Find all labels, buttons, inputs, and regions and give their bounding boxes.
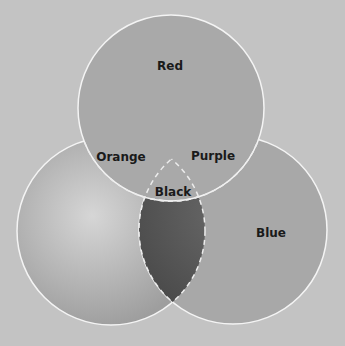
label-blue: Blue: [256, 226, 286, 240]
label-orange: Orange: [96, 150, 146, 164]
label-black: Black: [155, 185, 191, 199]
venn-diagram: Red Orange Purple Black Blue: [0, 0, 345, 346]
label-red: Red: [157, 59, 183, 73]
label-purple: Purple: [191, 149, 235, 163]
red-circle: [78, 15, 264, 201]
venn-graphic: [0, 0, 345, 346]
